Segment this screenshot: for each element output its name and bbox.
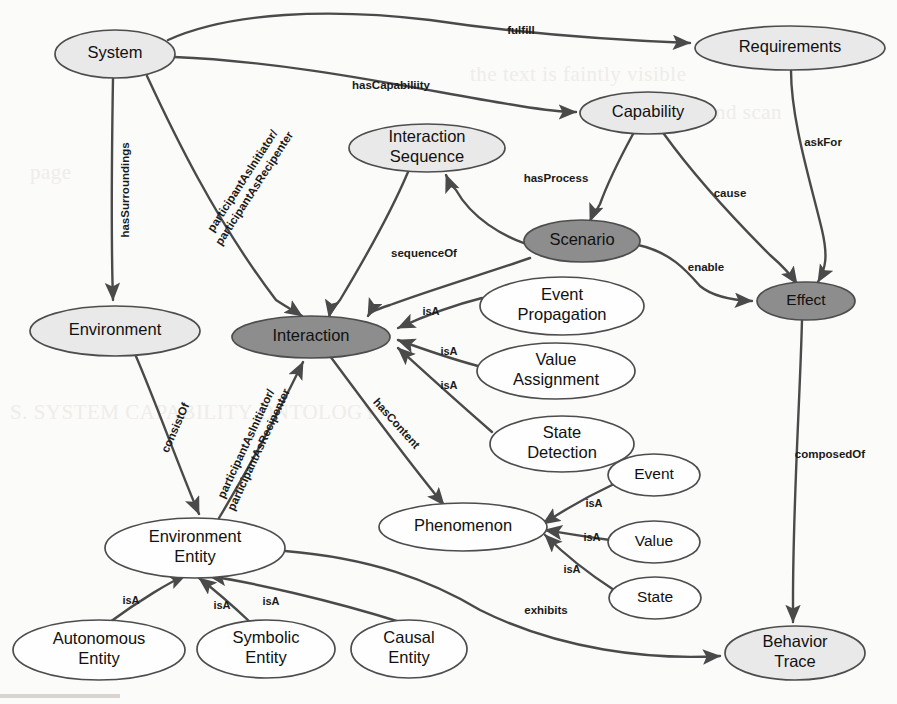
diagram-canvas: SystemRequirementsCapabilityInteractionS…: [0, 0, 897, 704]
ontology-diagram: S. SYSTEM CAPABILITY ONTOLOGYpagethe bac…: [0, 0, 897, 704]
edge-label-e-enable: enable: [688, 261, 724, 273]
edge-label-text: hasContent: [371, 396, 422, 451]
edge-value-to-phenomenon: [545, 530, 610, 540]
node-environment[interactable]: Environment: [30, 306, 200, 356]
edge-event-propagation-to-interaction: [398, 298, 482, 328]
edge-system-to-environment: [112, 78, 113, 300]
edge-system-to-capability: [174, 57, 576, 112]
node-autonomous-entity[interactable]: AutonomousEntity: [13, 620, 185, 680]
edge-value-assignment-to-interaction: [398, 340, 478, 366]
node-shape-behavior-trace: [725, 626, 865, 680]
edge-environment-entity-to-interaction: [219, 362, 303, 518]
edge-causal-entity-to-environment-entity: [209, 576, 400, 622]
edge-label-text: isA: [585, 497, 602, 509]
edge-system-to-interaction: [147, 76, 302, 316]
edge-label-text: exhibits: [524, 604, 567, 616]
edge-label-e-hasprocess: hasProcess: [524, 172, 589, 184]
node-shape-causal-entity: [351, 620, 467, 678]
edge-capability-to-effect: [664, 134, 797, 284]
node-shape-interaction-seq: [349, 124, 505, 172]
node-phenomenon[interactable]: Phenomenon: [379, 503, 547, 551]
page-footer-rule: [0, 694, 120, 698]
node-shape-interaction: [232, 316, 390, 358]
edge-label-e-hassurroundings: hasSurroundings: [119, 142, 131, 237]
node-state[interactable]: State: [609, 577, 701, 619]
edge-label-e-cause: cause: [714, 187, 747, 199]
edge-label-text: enable: [688, 261, 724, 273]
edge-label-e-isa-event: isA: [585, 497, 602, 509]
edge-label-text: isA: [262, 595, 279, 607]
node-shape-system: [55, 30, 175, 78]
edge-label-e-participant-si: participantAsInitiator/participantAsReci…: [201, 121, 295, 247]
edge-state-detection-to-interaction: [398, 348, 492, 432]
node-value-assignment[interactable]: ValueAssignment: [477, 343, 635, 399]
edge-interaction-to-phenomenon: [330, 356, 444, 505]
node-event[interactable]: Event: [608, 454, 700, 496]
node-shape-event: [608, 454, 700, 496]
edge-system-to-requirements: [168, 14, 690, 43]
node-effect[interactable]: Effect: [757, 282, 855, 320]
edge-label-e-participant-ee: participantAsInitiator/participantAsReci…: [212, 380, 292, 512]
edge-label-e-sequenceof: sequenceOf: [391, 247, 457, 259]
edge-capability-to-scenario: [590, 134, 633, 221]
node-causal-entity[interactable]: CausalEntity: [351, 620, 467, 678]
edge-label-e-askfor: askFor: [804, 136, 842, 148]
node-state-detection[interactable]: StateDetection: [490, 416, 634, 472]
edge-interaction-seq-to-interaction: [329, 172, 408, 317]
node-shape-state-detection: [490, 416, 634, 472]
node-capability[interactable]: Capability: [580, 92, 716, 134]
edge-label-text: participantAsInitiator/: [205, 127, 280, 234]
edge-label-text: hasSurroundings: [119, 142, 131, 237]
edge-label-text: askFor: [804, 136, 842, 148]
node-shape-phenomenon: [379, 503, 547, 551]
edge-label-e-exhibits: exhibits: [524, 604, 567, 616]
edge-autonomous-entity-to-environment-entity: [110, 575, 186, 622]
nodes-layer: SystemRequirementsCapabilityInteractionS…: [13, 26, 885, 680]
node-scenario[interactable]: Scenario: [524, 220, 640, 262]
edge-effect-to-behavior-trace: [793, 320, 802, 622]
node-interaction-seq[interactable]: InteractionSequence: [349, 124, 505, 172]
node-shape-environment-entity: [105, 518, 285, 578]
node-shape-autonomous-entity: [13, 620, 185, 680]
node-symbolic-entity[interactable]: SymbolicEntity: [197, 620, 335, 678]
node-event-propagation[interactable]: EventPropagation: [480, 277, 644, 335]
node-behavior-trace[interactable]: BehaviorTrace: [725, 626, 865, 680]
edge-label-text: hasProcess: [524, 172, 589, 184]
edge-label-text: cause: [714, 187, 747, 199]
edge-event-to-phenomenon: [543, 485, 612, 524]
node-system[interactable]: System: [55, 30, 175, 78]
node-shape-value: [608, 521, 700, 563]
node-shape-requirements: [695, 26, 885, 70]
edge-scenario-to-effect: [638, 245, 752, 301]
edge-label-text: composedOf: [795, 448, 865, 460]
edge-symbolic-entity-to-environment-entity: [199, 578, 250, 622]
node-shape-value-assignment: [477, 343, 635, 399]
edge-state-to-phenomenon: [545, 535, 614, 590]
node-value[interactable]: Value: [608, 521, 700, 563]
node-environment-entity[interactable]: EnvironmentEntity: [105, 518, 285, 578]
node-shape-state: [609, 577, 701, 619]
edge-label-text: participantAsInitiator/: [215, 387, 276, 501]
edge-label-e-hascontent: hasContent: [371, 396, 422, 451]
edge-environment-to-environment-entity: [135, 354, 199, 514]
edge-label-text: participantAsRecipenter: [213, 129, 296, 247]
edge-label-e-composedof: composedOf: [795, 448, 865, 460]
edge-requirements-to-effect: [791, 70, 825, 282]
edge-label-text: sequenceOf: [391, 247, 457, 259]
node-shape-capability: [580, 92, 716, 134]
node-shape-scenario: [524, 220, 640, 262]
node-shape-environment: [30, 306, 200, 356]
edge-label-e-isa-causal: isA: [262, 595, 279, 607]
node-shape-effect: [757, 282, 855, 320]
node-shape-event-propagation: [480, 277, 644, 335]
node-requirements[interactable]: Requirements: [695, 26, 885, 70]
node-shape-symbolic-entity: [197, 620, 335, 678]
node-interaction[interactable]: Interaction: [232, 316, 390, 358]
